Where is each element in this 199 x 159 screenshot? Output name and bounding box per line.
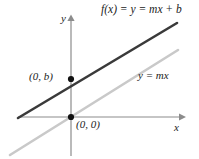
y-axis-arrowhead-icon: [67, 15, 74, 22]
point-marker-origin: [68, 114, 74, 120]
point-marker-y-intercept: [68, 76, 74, 82]
equation-label-main: f(x) = y = mx + b: [101, 4, 182, 16]
point-label-origin: (0, 0): [76, 119, 100, 130]
x-axis-arrowhead-icon: [179, 113, 186, 120]
linear-function-figure: f(x) = y = mx + b y = mx (0, b) (0, 0) y…: [0, 0, 199, 159]
y-axis-label: y: [61, 13, 66, 24]
point-label-y-intercept: (0, b): [29, 71, 53, 82]
equation-label-secondary: y = mx: [138, 70, 169, 81]
line-y-equals-mx: [10, 50, 178, 155]
x-axis-label: x: [174, 122, 179, 133]
